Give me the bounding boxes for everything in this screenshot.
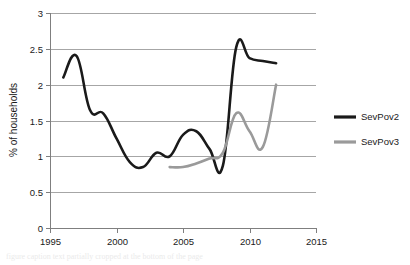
chart-legend: SevPov2SevPov3 [334,111,399,147]
x-tick-label-group: 19952000200520102015 [40,236,327,247]
y-tick-label: 2.5 [30,44,43,55]
legend-label-sevpov3: SevPov3 [361,136,399,147]
x-tick-label: 2015 [306,236,327,247]
y-tick-label: 1.5 [30,116,43,127]
line-chart-figure: 00.511.522.53 19952000200520102015 % of … [0,0,410,265]
x-tick-label: 1995 [40,236,61,247]
legend-label-sevpov2: SevPov2 [361,111,399,122]
y-axis-title: % of households [8,83,19,157]
chart-canvas: 00.511.522.53 19952000200520102015 % of … [0,0,410,265]
y-tick-group [46,14,50,229]
y-tick-label: 2 [38,80,43,91]
y-tick-label-group: 00.511.522.53 [30,8,43,234]
x-tick-label: 2010 [240,236,261,247]
x-tick-label: 2005 [173,236,194,247]
y-tick-label: 1 [38,151,43,162]
plot-area-background [50,13,316,228]
y-tick-label: 0 [38,223,43,234]
y-tick-label: 0.5 [30,187,43,198]
y-tick-label: 3 [38,8,43,19]
page-bleed-text: figure caption text partially cropped at… [6,252,336,263]
x-tick-label: 2000 [107,236,128,247]
